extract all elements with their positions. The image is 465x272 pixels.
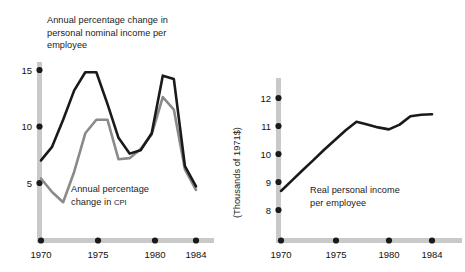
left-x-tick-dot-1970 (38, 237, 44, 243)
right-x-tick-dot-1980 (386, 237, 392, 243)
left-x-tick-label-1970: 1970 (30, 249, 51, 260)
left-series-nominal-income-line (41, 72, 196, 186)
real-income-annotation-line1: Real personal income (310, 184, 430, 197)
right-y-tick-dot-10 (275, 151, 281, 157)
right-x-tick-label-1975: 1975 (325, 249, 346, 260)
left-x-tick-label-1980: 1980 (144, 249, 165, 260)
cpi-annotation-line1: Annual percentage (71, 183, 186, 196)
right-x-tick-dot-1970 (278, 237, 284, 243)
right-x-tick-dot-1975 (333, 237, 339, 243)
right-y-tick-label-8: 8 (266, 205, 271, 216)
right-x-tick-label-1970: 1970 (270, 249, 291, 260)
left-x-tick-label-1975: 1975 (87, 249, 108, 260)
right-y-tick-label-9: 9 (266, 177, 271, 188)
right-y-tick-dot-11 (275, 123, 281, 129)
right-chart-svg: 12 11 10 9 8 1970 1975 1980 1984 (Thousa… (232, 0, 465, 272)
cpi-abbreviation: CPI (114, 198, 127, 207)
real-income-annotation-line2: per employee (310, 197, 430, 210)
left-y-axis (37, 62, 42, 242)
left-x-axis (37, 238, 214, 243)
left-y-tick-dot-10 (36, 123, 42, 129)
left-chart-title-line1: Annual percentage change in (47, 14, 212, 27)
chart-panel-left: 15 10 5 1970 1975 1980 1984 Annual perce… (0, 0, 232, 272)
real-income-annotation: Real personal income per employee (310, 184, 430, 209)
right-x-tick-dot-1984 (429, 237, 435, 243)
left-x-tick-dot-1975 (95, 237, 101, 243)
right-y-tick-label-11: 11 (261, 121, 271, 132)
right-x-tick-label-1984: 1984 (421, 249, 442, 260)
right-y-tick-label-12: 12 (260, 93, 271, 104)
left-chart-title-line3: employee (47, 39, 212, 52)
right-series-real-income-line (281, 114, 432, 191)
right-y-tick-dot-12 (275, 95, 281, 101)
left-chart-title-line2: personal nominal income per (47, 27, 212, 40)
right-y-axis-title: (Thousands of 1971$) (232, 127, 242, 218)
figure-root: 15 10 5 1970 1975 1980 1984 Annual perce… (0, 0, 465, 272)
cpi-series-annotation: Annual percentage change in CPI (71, 183, 186, 209)
left-x-tick-dot-1980 (152, 237, 158, 243)
right-y-tick-dot-8 (275, 207, 281, 213)
left-chart-title: Annual percentage change in personal nom… (47, 14, 212, 52)
cpi-annotation-line2-text: change in (71, 197, 114, 207)
left-y-tick-label-5: 5 (27, 178, 32, 189)
right-y-tick-dot-9 (275, 179, 281, 185)
right-y-tick-label-10: 10 (260, 149, 271, 160)
left-y-tick-label-10: 10 (21, 121, 32, 132)
right-x-tick-label-1980: 1980 (378, 249, 399, 260)
cpi-annotation-line2: change in CPI (71, 196, 186, 210)
left-x-tick-label-1984: 1984 (185, 249, 206, 260)
left-y-tick-label-15: 15 (21, 65, 32, 76)
left-x-tick-dot-1984 (193, 237, 199, 243)
chart-panel-right: 12 11 10 9 8 1970 1975 1980 1984 (Thousa… (232, 0, 465, 272)
right-y-axis (276, 78, 281, 242)
left-y-tick-dot-15 (36, 67, 42, 73)
